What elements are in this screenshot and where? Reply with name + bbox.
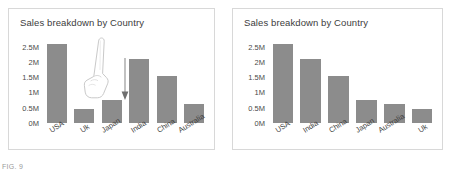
bar[interactable]: [273, 44, 294, 123]
y-axis-tick: 2M: [255, 57, 265, 66]
y-axis-tick: 1.5M: [248, 73, 265, 82]
y-axis-tick: 0.5M: [22, 103, 39, 112]
x-label-slot: Japan: [98, 125, 126, 149]
y-axis-tick: 0.5M: [248, 103, 265, 112]
chart-panel-before-sort: Sales breakdown by Country 2.5M2M1.5M1M0…: [8, 8, 215, 150]
page-title-sorted: Sales breakdown by Country: [244, 17, 368, 28]
bar[interactable]: [74, 109, 94, 123]
y-axis-tick: 2M: [29, 57, 39, 66]
y-axis-tick: 0M: [255, 119, 265, 128]
y-axis-tick: 0M: [29, 119, 39, 128]
x-label-slot: China: [325, 125, 353, 149]
bar[interactable]: [47, 44, 67, 123]
plot-area-after-sort: 2.5M2M1.5M1M0.5M0M: [269, 39, 436, 123]
y-axis-tick: 1.5M: [22, 73, 39, 82]
bar-group-before-sort: [43, 39, 208, 123]
y-axis-tick: 2.5M: [22, 42, 39, 51]
bar-slot: [297, 39, 325, 123]
x-label-slot: Japan: [352, 125, 380, 149]
y-axis-tick: 1M: [29, 88, 39, 97]
plot-area-before-sort: 2.5M2M1.5M1M0.5M0M: [43, 39, 208, 123]
x-label-slot: China: [153, 125, 181, 149]
x-label-slot: USA: [269, 125, 297, 149]
x-label-slot: Uk: [408, 125, 436, 149]
bar[interactable]: [412, 109, 433, 123]
bar-slot: [126, 39, 154, 123]
y-axis-tick: 1M: [255, 88, 265, 97]
bar-slot: [380, 39, 408, 123]
x-label-slot: India: [126, 125, 154, 149]
bar-group-after-sort: [269, 39, 436, 123]
x-axis-labels-after-sort: USAIndiaChinaJapanAustraliaUk: [269, 125, 436, 149]
bar-slot: [181, 39, 209, 123]
x-label-slot: USA: [43, 125, 71, 149]
figure-caption: FIG. 9: [2, 163, 23, 170]
bar-slot: [408, 39, 436, 123]
bar-slot: [325, 39, 353, 123]
y-axis-tick: 2.5M: [248, 42, 265, 51]
bar-slot: [71, 39, 99, 123]
bar[interactable]: [129, 59, 149, 123]
page-title: Sales breakdown by Country: [20, 17, 144, 28]
bar[interactable]: [157, 76, 177, 123]
bar-slot: [269, 39, 297, 123]
bar[interactable]: [300, 59, 321, 123]
x-axis-tick-label[interactable]: Uk: [417, 122, 430, 134]
x-axis-tick-label[interactable]: Uk: [79, 122, 92, 134]
bar-slot: [43, 39, 71, 123]
figure-container: Sales breakdown by Country 2.5M2M1.5M1M0…: [0, 0, 451, 178]
chart-panel-after-sort: Sales breakdown by Country 2.5M2M1.5M1M0…: [232, 8, 443, 150]
x-axis-labels-before-sort: USAUkJapanIndiaChinaAustralia: [43, 125, 208, 149]
bar-slot: [352, 39, 380, 123]
x-label-slot: Australia: [181, 125, 209, 149]
bar-slot: [153, 39, 181, 123]
x-label-slot: Uk: [71, 125, 99, 149]
x-label-slot: Australia: [380, 125, 408, 149]
bar-slot: [98, 39, 126, 123]
x-label-slot: India: [297, 125, 325, 149]
bar[interactable]: [328, 76, 349, 123]
